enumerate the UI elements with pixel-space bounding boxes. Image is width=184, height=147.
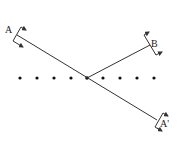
section-marker-a-prime: A' (155, 113, 169, 131)
section-line-b (87, 45, 150, 78)
label-b: B (151, 38, 158, 49)
dot (52, 76, 55, 79)
dot (118, 76, 121, 79)
section-marker-b: B (144, 32, 162, 55)
label-a-prime: A' (160, 118, 169, 129)
section-diagram: A B A' (0, 0, 184, 147)
dot (135, 76, 138, 79)
section-marker-a: A (5, 24, 26, 47)
dot (152, 76, 155, 79)
dot (69, 76, 72, 79)
dot (18, 76, 21, 79)
label-a: A (5, 24, 13, 35)
dot (101, 76, 104, 79)
dot (35, 76, 38, 79)
